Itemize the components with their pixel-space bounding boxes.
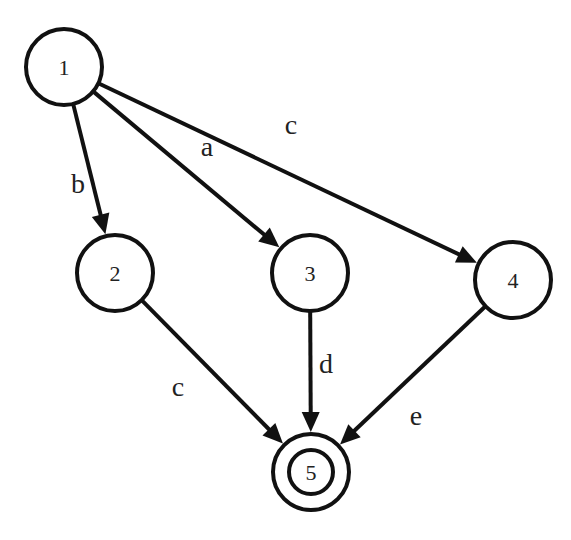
edge-1-to-4 <box>98 83 464 257</box>
state-node-5: 5 <box>273 434 349 510</box>
state-label: 1 <box>59 55 70 80</box>
edge-label-1-4: c <box>285 109 297 140</box>
edge-3-to-5 <box>310 311 311 418</box>
state-label: 3 <box>305 261 316 286</box>
edge-label-2-5: c <box>172 371 184 402</box>
state-node-4: 4 <box>475 242 551 318</box>
state-label: 5 <box>306 460 317 485</box>
edge-label-1-3: a <box>201 131 214 162</box>
edge-label-1-2: b <box>71 168 85 199</box>
arrowhead-icon <box>92 213 109 235</box>
edge-1-to-2 <box>73 104 102 221</box>
state-diagram: 12345 baccde <box>0 0 571 540</box>
state-node-1: 1 <box>26 29 102 105</box>
edge-2-to-5 <box>142 300 273 433</box>
edge-1-to-3 <box>93 91 268 238</box>
arrowhead-icon <box>302 412 320 432</box>
state-label: 2 <box>110 261 121 286</box>
edge-label-3-5: d <box>319 348 333 379</box>
state-label: 4 <box>508 268 519 293</box>
edge-label-4-5: e <box>410 400 422 431</box>
state-node-3: 3 <box>272 235 348 311</box>
state-node-2: 2 <box>77 235 153 311</box>
